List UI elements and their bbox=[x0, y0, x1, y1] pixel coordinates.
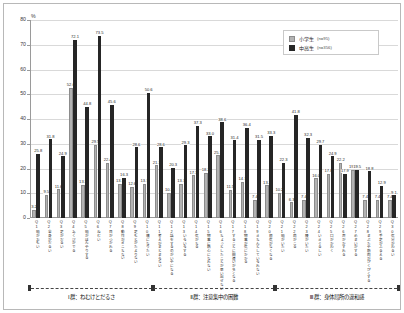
x-axis-question-id: Q30 bbox=[390, 219, 394, 233]
y-tick-label: 40 bbox=[20, 116, 26, 121]
x-axis-question-text: めまいがする bbox=[353, 234, 357, 257]
bar-value-label: 17.9 bbox=[341, 169, 349, 173]
bar-中高生-Q21 bbox=[282, 163, 286, 218]
x-axis-label-Q11: Q11考えがまとまらない bbox=[153, 219, 165, 281]
group-bracket-left-arrow-icon bbox=[28, 285, 31, 291]
x-axis-question-text: 足もとがたよりない bbox=[132, 230, 136, 264]
bar-group: 22.445.6 bbox=[106, 20, 114, 218]
x-axis-label-Q24: Q24いきぐるしい bbox=[312, 219, 324, 281]
x-axis-label-Q18: Q18物事が気にかかる bbox=[239, 219, 251, 281]
legend-label-chuukousei: 中高生 bbox=[299, 44, 314, 51]
x-axis-question-text: ちょっとしたことが思い出せない bbox=[218, 234, 222, 290]
bar-中高生-Q19 bbox=[257, 140, 261, 218]
bar-小学生-Q6 bbox=[94, 145, 98, 218]
bar-value-label: 38.6 bbox=[218, 118, 226, 122]
y-tick-label: 20 bbox=[20, 166, 26, 171]
chart-screenshot: % 01020304050607080 3.225.89.531.811.624… bbox=[0, 0, 404, 313]
bar-value-label: 31.5 bbox=[255, 135, 263, 139]
x-axis-label-Q26: Q26声がかすれる bbox=[337, 219, 349, 281]
bar-value-label: 37.3 bbox=[194, 121, 202, 125]
x-axis-question-id: Q11 bbox=[157, 219, 161, 233]
x-axis-label-Q9: Q9足もとがたよりない bbox=[128, 219, 140, 281]
bar-value-label: 28.6 bbox=[157, 143, 165, 147]
bar-中高生-Q15 bbox=[208, 136, 212, 218]
chart-legend: 小学生 (n=95) 中高生 (n=356) bbox=[283, 30, 379, 55]
bar-value-label: 33.0 bbox=[206, 132, 214, 136]
bar-中高生-Q10 bbox=[147, 93, 151, 218]
bar-中高生-Q25 bbox=[331, 156, 335, 218]
y-axis-unit: % bbox=[31, 13, 36, 19]
x-axis-question-text: 気分がわるい bbox=[390, 234, 394, 257]
bar-小学生-Q1 bbox=[32, 210, 36, 218]
bar-小学生-Q27 bbox=[351, 170, 355, 218]
legend-count-chuukousei: (n=356) bbox=[317, 45, 332, 50]
group-bracket-left-arrow-icon bbox=[151, 285, 154, 291]
x-axis-question-id: Q26 bbox=[341, 219, 345, 233]
x-axis-question-id: Q4 bbox=[71, 219, 75, 229]
bar-中高生-Q28 bbox=[368, 171, 372, 218]
bar-小学生-Q17 bbox=[229, 190, 233, 218]
x-axis-question-id: Q19 bbox=[255, 219, 259, 233]
bar-小学生-Q25 bbox=[327, 174, 331, 218]
bar-value-label: 72.1 bbox=[71, 35, 79, 39]
bar-小学生-Q11 bbox=[155, 165, 159, 218]
bar-group: 12.628.6 bbox=[130, 20, 138, 218]
group-bracket-line bbox=[31, 288, 152, 290]
bar-小学生-Q18 bbox=[241, 182, 245, 218]
bar-value-label: 36.4 bbox=[243, 123, 251, 127]
x-axis-question-id: Q23 bbox=[304, 219, 308, 233]
bar-中高生-Q9 bbox=[135, 147, 139, 218]
bar-中高生-Q6 bbox=[98, 36, 102, 218]
x-axis-question-id: Q13 bbox=[181, 219, 185, 233]
bar-中高生-Q5 bbox=[85, 107, 89, 218]
bar-小学生-Q28 bbox=[363, 200, 367, 218]
bar-value-label: 73.5 bbox=[95, 31, 103, 35]
x-axis-question-text: 頭がおもい bbox=[34, 230, 38, 249]
bar-中高生-Q13 bbox=[184, 145, 188, 218]
x-axis-question-id: Q20 bbox=[267, 219, 271, 233]
bar-小学生-Q23 bbox=[302, 200, 306, 218]
bar-小学生-Q12 bbox=[167, 193, 171, 218]
legend-swatch-icon-chuukousei bbox=[289, 45, 295, 51]
legend-item-shougakusei: 小学生 (n=95) bbox=[289, 34, 378, 43]
x-axis-question-id: Q8 bbox=[120, 219, 124, 229]
bar-小学生-Q7 bbox=[106, 163, 110, 218]
bar-group: 13.716.3 bbox=[118, 20, 126, 218]
bar-小学生-Q4 bbox=[69, 88, 73, 218]
bar-小学生-Q2 bbox=[45, 195, 49, 219]
bar-小学生-Q30 bbox=[388, 200, 392, 218]
legend-count-shougakusei: (n=95) bbox=[317, 36, 330, 41]
bar-中高生-Q8 bbox=[122, 178, 126, 218]
bar-中高生-Q20 bbox=[269, 136, 273, 218]
x-axis-question-text: いきぐるしい bbox=[316, 234, 320, 257]
group-title: Ⅲ群：身体局所の違和感 bbox=[310, 293, 364, 301]
bar-group: 14.736.4 bbox=[241, 20, 249, 218]
bar-value-label: 45.6 bbox=[108, 100, 116, 104]
bar-中高生-Q24 bbox=[319, 145, 323, 219]
bar-中高生-Q30 bbox=[392, 195, 396, 218]
bar-value-label: 24.9 bbox=[59, 152, 67, 156]
group-brackets: Ⅰ群：ねむけとだるさⅡ群：注意集中の困難Ⅲ群：身体局所の違和感 bbox=[30, 284, 398, 308]
x-axis-question-text: 腰がいたい bbox=[304, 234, 308, 253]
bar-小学生-Q24 bbox=[314, 178, 318, 218]
x-axis-label-Q23: Q23腰がいたい bbox=[300, 219, 312, 281]
x-axis-question-text: 頭がいたい bbox=[280, 234, 284, 253]
x-axis-question-text: 肩がこる bbox=[292, 234, 296, 249]
y-tick-label: 50 bbox=[20, 92, 26, 97]
bar-中高生-Q29 bbox=[380, 186, 384, 218]
x-axis-question-id: Q25 bbox=[329, 219, 333, 233]
x-axis-question-text: 考えがまとまらない bbox=[157, 234, 161, 268]
x-axis-question-id: Q2 bbox=[46, 219, 50, 229]
x-axis-question-text: 目がつかれる bbox=[108, 230, 112, 253]
group-title: Ⅱ群：注意集中の困難 bbox=[190, 293, 238, 301]
x-axis-label-Q10: Q10横になりたい bbox=[140, 219, 152, 281]
bar-小学生-Q3 bbox=[57, 189, 61, 218]
bar-group: 21.328.6 bbox=[155, 20, 163, 218]
x-axis-question-id: Q27 bbox=[353, 219, 357, 233]
x-axis-question-text: 物事に熱心になれない bbox=[206, 234, 210, 272]
bar-group: 13.544.8 bbox=[81, 20, 89, 218]
x-axis-label-Q13: Q13いらいらする bbox=[177, 219, 189, 281]
x-axis-question-text: まぶたや筋肉がぴくぴくする bbox=[365, 234, 369, 283]
x-axis-label-Q15: Q15物事に熱心になれない bbox=[202, 219, 214, 281]
x-axis-question-id: Q22 bbox=[292, 219, 296, 233]
